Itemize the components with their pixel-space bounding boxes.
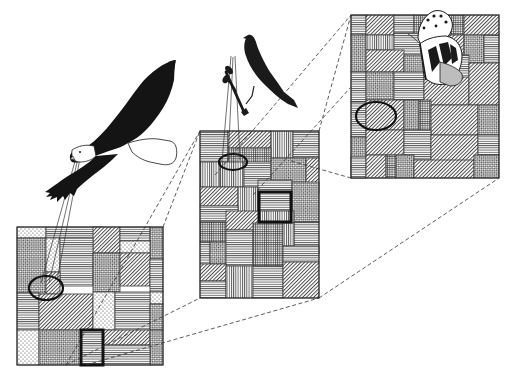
habitat-patch-grid (253, 223, 283, 266)
habitat-patch-horizontal-lines (478, 135, 499, 155)
habitat-patch-checker (93, 253, 120, 292)
habitat-patch-checker (39, 330, 81, 365)
habitat-patch-horizontal-lines (394, 15, 414, 33)
scale-projection-line (319, 15, 351, 131)
habitat-patch-horizontal-lines (103, 345, 150, 365)
figure-stage (0, 0, 515, 373)
habitat-patch-diagonal-lines (200, 187, 238, 206)
habitat-patch-checker (396, 155, 414, 178)
habitat-patch-grid (386, 155, 396, 178)
habitat-patch-checker (210, 242, 226, 264)
habitat-patch-diagonal-lines (93, 227, 120, 253)
landscape-panel-coarse (17, 227, 163, 365)
habitat-patch-diagonal-lines (366, 15, 394, 35)
habitat-patch-horizontal-lines (484, 35, 499, 63)
landscape-panel-intermediate (200, 131, 319, 298)
landscape-scale-diagram (0, 0, 515, 373)
habitat-patch-grid (200, 222, 226, 242)
habitat-patch-vertical-lines (220, 162, 244, 187)
habitat-patch-horizontal-lines (150, 259, 163, 292)
habitat-patch-vertical-lines (226, 266, 253, 298)
habitat-patch-diagonal-lines (414, 160, 474, 178)
habitat-patch-dots (120, 241, 150, 253)
habitat-patch-horizontal-lines (351, 15, 366, 35)
habitat-patch-checker (292, 182, 319, 222)
habitat-patch-horizontal-lines (120, 227, 150, 241)
songbird-icon (221, 35, 298, 116)
habitat-patch-horizontal-lines (351, 102, 366, 137)
habitat-patch-diagonal-lines (366, 130, 404, 155)
habitat-patch-checker (366, 72, 394, 100)
habitat-patch-horizontal-lines (351, 72, 366, 102)
habitat-patch-diagonal-lines (464, 15, 499, 35)
habitat-patch-horizontal-lines (293, 131, 319, 158)
scale-projection-line (319, 178, 499, 298)
habitat-patch-dots (17, 330, 39, 365)
habitat-patch-dots (93, 292, 115, 330)
habitat-patch-vertical-lines (200, 162, 220, 187)
habitat-patch-horizontal-lines (200, 281, 226, 298)
habitat-patch-diagonal-lines (200, 264, 226, 281)
habitat-patch-diagonal-lines (283, 262, 319, 298)
habitat-patch-diagonal-lines (120, 253, 150, 286)
habitat-patch-horizontal-lines (200, 242, 210, 264)
habitat-patch-horizontal-lines (253, 266, 283, 298)
habitat-patch-horizontal-lines (283, 246, 319, 262)
habitat-patch-horizontal-lines (351, 157, 366, 178)
habitat-patch-diagonal-lines (469, 63, 499, 105)
habitat-patch-horizontal-lines (394, 72, 424, 100)
habitat-patch-horizontal-lines (60, 238, 93, 286)
habitat-patch-checker (478, 105, 499, 135)
habitat-patch-checker (404, 100, 419, 130)
habitat-patch-diagonal-lines (228, 131, 271, 148)
habitat-patch-horizontal-lines (258, 180, 292, 211)
habitat-patch-horizontal-lines (226, 230, 253, 266)
habitat-patch-dots (150, 292, 163, 304)
habitat-patch-checker (150, 304, 163, 330)
habitat-patch-checker (150, 227, 163, 259)
habitat-patch-dots (17, 227, 46, 238)
eagle-icon (45, 60, 177, 202)
habitat-patch-horizontal-lines (115, 292, 150, 330)
habitat-patch-horizontal-lines (81, 330, 103, 365)
habitat-patch-checker (150, 330, 163, 365)
habitat-patch-vertical-lines (271, 131, 293, 158)
habitat-patch-checker (474, 155, 499, 178)
habitat-patch-grid (419, 100, 431, 130)
habitat-patch-diagonal-lines (366, 50, 404, 72)
habitat-patch-diagonal-lines (366, 155, 386, 178)
habitat-patch-checker (17, 238, 46, 293)
habitat-patch-diagonal-lines (431, 105, 478, 135)
habitat-patch-checker (351, 35, 366, 72)
habitat-patch-vertical-lines (366, 35, 394, 50)
habitat-patch-horizontal-lines (200, 131, 228, 162)
habitat-patch-vertical-lines (283, 223, 294, 246)
